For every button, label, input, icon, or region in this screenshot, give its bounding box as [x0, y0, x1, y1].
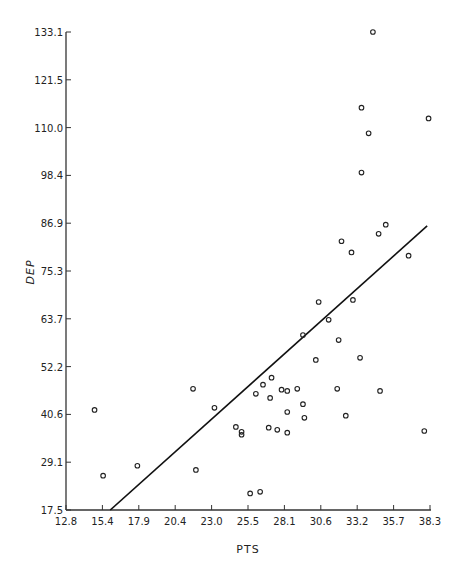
data-point — [239, 432, 244, 437]
data-point — [254, 392, 259, 397]
data-point — [371, 30, 376, 35]
y-axis: 17.529.140.652.263.775.386.998.4110.0121… — [24, 27, 71, 516]
data-point — [279, 387, 284, 392]
x-tick-label: 35.7 — [382, 516, 404, 527]
data-point — [266, 425, 271, 430]
data-point — [314, 358, 319, 363]
fit-line — [110, 226, 427, 510]
x-tick-label: 28.1 — [273, 516, 295, 527]
x-tick-label: 15.4 — [91, 516, 113, 527]
x-tick-label: 25.5 — [237, 516, 259, 527]
data-point — [349, 250, 354, 255]
data-point — [269, 375, 274, 380]
data-point — [383, 222, 388, 227]
x-tick-label: 38.3 — [419, 516, 441, 527]
data-point — [339, 239, 344, 244]
data-point — [335, 387, 340, 392]
data-point — [406, 253, 411, 258]
y-tick-label: 40.6 — [41, 409, 63, 420]
data-point — [351, 298, 356, 303]
y-tick-label: 133.1 — [34, 27, 63, 38]
data-point — [378, 389, 383, 394]
x-tick-label: 17.9 — [128, 516, 150, 527]
data-point — [422, 429, 427, 434]
data-point — [212, 406, 217, 411]
data-point — [359, 170, 364, 175]
x-tick-label: 30.6 — [310, 516, 332, 527]
data-point — [258, 490, 263, 495]
data-point — [316, 300, 321, 305]
data-point — [275, 427, 280, 432]
data-point — [101, 473, 106, 478]
x-tick-label: 33.2 — [346, 516, 368, 527]
x-tick-label: 23.0 — [200, 516, 222, 527]
x-tick-label: 20.4 — [164, 516, 186, 527]
data-point — [234, 425, 239, 430]
data-point — [358, 356, 363, 361]
y-tick-label: 110.0 — [34, 123, 63, 134]
data-point — [248, 491, 253, 496]
x-axis: 12.815.417.920.423.025.528.130.633.235.7… — [55, 505, 441, 556]
data-points — [92, 30, 431, 496]
y-tick-label: 52.2 — [41, 362, 63, 373]
y-axis-title: DEP — [24, 259, 37, 284]
data-point — [295, 387, 300, 392]
data-point — [268, 396, 273, 401]
data-point — [359, 105, 364, 110]
data-point — [366, 131, 371, 136]
x-tick-label: 12.8 — [55, 516, 77, 527]
data-point — [426, 116, 431, 121]
data-point — [301, 402, 306, 407]
data-point — [336, 338, 341, 343]
y-tick-label: 75.3 — [41, 266, 63, 277]
scatter-chart: 17.529.140.652.263.775.386.998.4110.0121… — [0, 0, 462, 567]
regression-line — [110, 226, 427, 510]
data-point — [92, 408, 97, 413]
data-point — [261, 382, 266, 387]
data-point — [302, 415, 307, 420]
data-point — [135, 463, 140, 468]
y-tick-label: 98.4 — [41, 170, 63, 181]
data-point — [285, 430, 290, 435]
data-point — [285, 410, 290, 415]
data-point — [191, 387, 196, 392]
y-tick-label: 17.5 — [41, 505, 63, 516]
x-axis-title: PTS — [236, 543, 259, 556]
y-tick-label: 29.1 — [41, 457, 63, 468]
y-tick-label: 63.7 — [41, 314, 63, 325]
y-tick-label: 121.5 — [34, 75, 63, 86]
data-point — [376, 231, 381, 236]
data-point — [343, 413, 348, 418]
y-tick-label: 86.9 — [41, 218, 63, 229]
data-point — [285, 389, 290, 394]
data-point — [326, 317, 331, 322]
data-point — [194, 468, 199, 473]
